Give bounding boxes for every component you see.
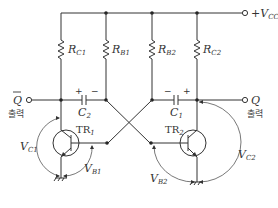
capacitor-c2: + − C2 xyxy=(32,86,108,120)
svg-text:출력: 출력 xyxy=(8,108,24,119)
svg-text:VC2: VC2 xyxy=(238,148,256,162)
svg-text:−: − xyxy=(164,86,172,96)
svg-text:Q: Q xyxy=(13,94,22,107)
svg-text:출력: 출력 xyxy=(247,108,263,119)
svg-text:+: + xyxy=(183,86,191,96)
ground-left xyxy=(54,178,67,181)
supply-rail: +VCC xyxy=(61,7,278,21)
vcc-label: +VCC xyxy=(251,7,278,21)
output-q: Q 출력 xyxy=(242,94,263,119)
svg-text:VC1: VC1 xyxy=(20,140,38,154)
svg-text:C1: C1 xyxy=(170,106,183,120)
svg-text:RC2: RC2 xyxy=(202,43,222,57)
svg-text:VB1: VB1 xyxy=(84,162,102,176)
svg-text:−: − xyxy=(91,86,99,96)
resistor-rc2: RC2 xyxy=(194,13,222,130)
svg-text:VB2: VB2 xyxy=(150,172,168,186)
svg-text:TR1: TR1 xyxy=(76,124,95,137)
capacitor-c1: − + C1 xyxy=(150,86,242,120)
resistor-rb1: RB1 xyxy=(103,13,130,100)
svg-text:Q: Q xyxy=(251,94,260,107)
multivibrator-circuit: +VCC RC1 RB1 RB2 RC2 + − C2 xyxy=(0,0,278,208)
svg-text:C2: C2 xyxy=(78,106,91,120)
svg-text:TR2: TR2 xyxy=(165,124,184,137)
cross-coupling xyxy=(105,100,153,145)
vb2-arc: VB2 xyxy=(150,145,195,186)
svg-text:RC1: RC1 xyxy=(67,43,86,57)
svg-text:RB2: RB2 xyxy=(157,43,176,57)
svg-text:RB1: RB1 xyxy=(111,43,130,57)
svg-text:+: + xyxy=(75,86,83,96)
transistor-tr2: TR2 xyxy=(151,124,206,182)
output-qbar: Q 출력 xyxy=(8,92,32,119)
vcc-terminal xyxy=(242,10,247,15)
resistor-rb2: RB2 xyxy=(149,13,176,100)
